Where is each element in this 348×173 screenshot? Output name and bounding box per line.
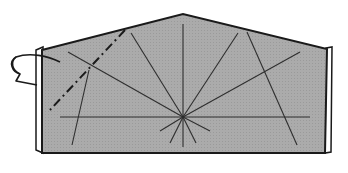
arrow-tail xyxy=(13,57,20,74)
paper-shape xyxy=(42,14,327,153)
origami-diagram xyxy=(0,0,348,173)
diagram-canvas xyxy=(0,0,348,173)
